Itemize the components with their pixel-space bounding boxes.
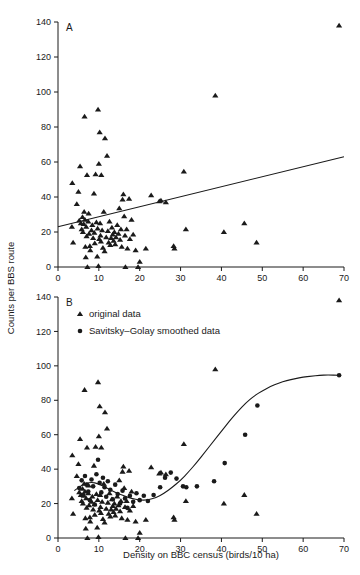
data-point-circle [101,475,106,480]
y-tick-label: 100 [36,361,51,371]
data-point-circle [255,403,260,408]
data-point-circle [104,494,109,499]
x-tick-label: 50 [257,273,267,283]
data-point-circle [195,484,200,489]
panel-letter: A [66,22,73,33]
data-point-circle [168,470,173,475]
data-point-circle [106,479,111,484]
y-tick-label: 60 [41,430,51,440]
data-point-circle [118,501,123,506]
x-tick-label: 60 [298,273,308,283]
y-tick-label: 20 [41,499,51,509]
data-point-circle [151,493,156,498]
data-point-circle [125,506,130,511]
figure-container: 020406080100120140010203040506070A 02040… [0,0,360,575]
data-point-circle [158,485,163,490]
y-tick-label: 40 [41,464,51,474]
data-point-circle [81,493,86,498]
data-point-circle [110,497,115,502]
legend-marker-circle [78,329,83,334]
data-point-circle [113,482,118,487]
data-point-circle [86,489,91,494]
y-tick-label: 120 [36,52,51,62]
data-point-circle [243,432,248,437]
y-tick-label: 140 [36,292,51,302]
x-tick-label: 40 [216,273,226,283]
y-tick-label: 20 [41,227,51,237]
panel-letter: B [66,297,73,308]
figure-background [0,0,360,575]
y-tick-label: 140 [36,17,51,27]
x-tick-label: 10 [94,273,104,283]
legend-label: Savitsky–Golay smoothed data [89,325,221,336]
x-tick-label: 60 [298,544,308,554]
data-point-circle [131,500,136,505]
data-point-circle [79,478,84,483]
y-tick-label: 80 [41,122,51,132]
y-tick-label: 120 [36,327,51,337]
y-tick-label: 60 [41,157,51,167]
y-tick-label: 40 [41,192,51,202]
x-tick-label: 20 [135,273,145,283]
x-tick-label: 0 [55,273,60,283]
x-tick-label: 10 [94,544,104,554]
data-point-circle [142,494,147,499]
data-point-circle [88,498,93,503]
data-point-circle [94,472,99,477]
data-point-circle [99,490,104,495]
legend-label: original data [89,308,141,319]
x-tick-label: 70 [339,544,349,554]
data-point-circle [96,457,101,462]
data-point-circle [163,475,168,480]
x-tick-label: 70 [339,273,349,283]
data-point-circle [91,484,96,489]
y-tick-label: 100 [36,87,51,97]
x-tick-label: 30 [176,273,186,283]
data-point-circle [212,479,217,484]
data-point-circle [222,461,227,466]
data-point-circle [89,477,94,482]
y-axis-title: Counts per BBS route [5,242,16,334]
y-tick-label: 80 [41,395,51,405]
x-axis-title: Density on BBC census (birds/10 ha) [123,549,279,560]
data-point-circle [134,491,139,496]
data-point-circle [83,474,88,479]
data-point-circle [92,502,97,507]
data-point-circle [120,488,125,493]
data-point-circle [184,485,189,490]
y-tick-label: 0 [46,533,51,543]
data-point-circle [174,476,179,481]
scatter-figure: 020406080100120140010203040506070A 02040… [0,0,360,575]
y-tick-label: 0 [46,262,51,272]
x-tick-label: 0 [55,544,60,554]
